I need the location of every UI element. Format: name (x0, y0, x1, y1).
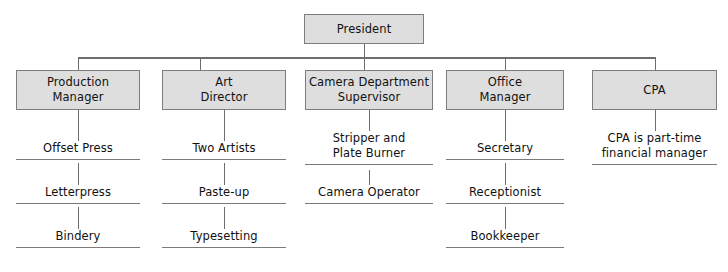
connector-bus-to-cpa (655, 57, 657, 70)
leaf-camera-operator[interactable]: Camera Operator (305, 185, 433, 204)
connector-office-to-leaf-2 (505, 163, 507, 185)
connector-art-to-leaf-2 (224, 163, 226, 185)
connector-bus-to-art (200, 57, 202, 70)
connector-cpa-to-note (655, 110, 657, 131)
org-chart: President Production Manager Offset Pres… (0, 0, 728, 272)
connector-camera-to-leaf-2 (369, 170, 371, 185)
node-art-director[interactable]: Art Director (162, 70, 286, 110)
leaf-bindery[interactable]: Bindery (16, 229, 140, 248)
connector-office-to-leaf-1 (505, 110, 507, 141)
leaf-paste-up[interactable]: Paste-up (162, 185, 286, 204)
connector-bus-to-camera (364, 57, 366, 70)
connector-root-stem (364, 44, 366, 58)
leaf-bookkeeper[interactable]: Bookkeeper (446, 229, 564, 248)
connector-production-to-leaf-1 (78, 110, 80, 141)
leaf-stripper-and-plate-burner[interactable]: Stripper and Plate Burner (305, 131, 433, 165)
leaf-receptionist[interactable]: Receptionist (446, 185, 564, 204)
node-cpa[interactable]: CPA (592, 70, 717, 110)
connector-production-to-leaf-2 (78, 163, 80, 185)
connector-bus-to-office (505, 57, 507, 70)
node-president[interactable]: President (304, 14, 424, 44)
connector-bus-to-production (78, 57, 80, 70)
leaf-secretary[interactable]: Secretary (446, 141, 564, 160)
leaf-offset-press[interactable]: Offset Press (16, 141, 140, 160)
leaf-cpa-note[interactable]: CPA is part-time financial manager (592, 131, 717, 165)
connector-art-to-leaf-3 (224, 207, 226, 229)
node-camera-department-supervisor[interactable]: Camera Department Supervisor (305, 70, 433, 110)
connector-office-to-leaf-3 (505, 207, 507, 229)
leaf-two-artists[interactable]: Two Artists (162, 141, 286, 160)
connector-bus (78, 57, 656, 59)
connector-camera-to-leaf-1 (369, 110, 371, 131)
node-office-manager[interactable]: Office Manager (446, 70, 564, 110)
connector-art-to-leaf-1 (224, 110, 226, 141)
node-production-manager[interactable]: Production Manager (16, 70, 140, 110)
leaf-letterpress[interactable]: Letterpress (16, 185, 140, 204)
connector-production-to-leaf-3 (78, 207, 80, 229)
leaf-typesetting[interactable]: Typesetting (162, 229, 286, 248)
